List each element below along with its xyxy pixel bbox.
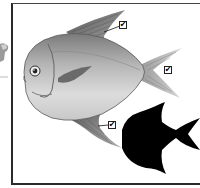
dorsal-fin-checkbox[interactable]: ✔ <box>119 21 127 29</box>
tail-fin <box>140 48 182 98</box>
fish-illustration <box>0 0 200 188</box>
fish-eye <box>30 66 40 76</box>
leader-line-anal <box>98 125 108 126</box>
fish-silhouette <box>122 102 200 174</box>
fish-body <box>24 33 145 120</box>
check-icon: ✔ <box>120 21 127 29</box>
check-icon: ✔ <box>165 66 172 74</box>
tail-fin-checkbox[interactable]: ✔ <box>164 66 172 74</box>
anal-fin-checkbox[interactable]: ✔ <box>108 121 116 129</box>
check-icon: ✔ <box>109 121 116 129</box>
